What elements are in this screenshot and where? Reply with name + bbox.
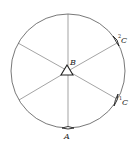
marker-a (62, 127, 74, 130)
marker-c1 (114, 94, 118, 106)
label-c2: C (121, 36, 127, 45)
circle-diagram: B A 2 C 1 C (0, 0, 138, 146)
spoke-upper-left (18, 43, 68, 71)
label-c1: C (122, 98, 128, 107)
label-b: B (69, 58, 76, 67)
spoke-lower-right (68, 71, 117, 99)
label-a: A (63, 132, 70, 141)
